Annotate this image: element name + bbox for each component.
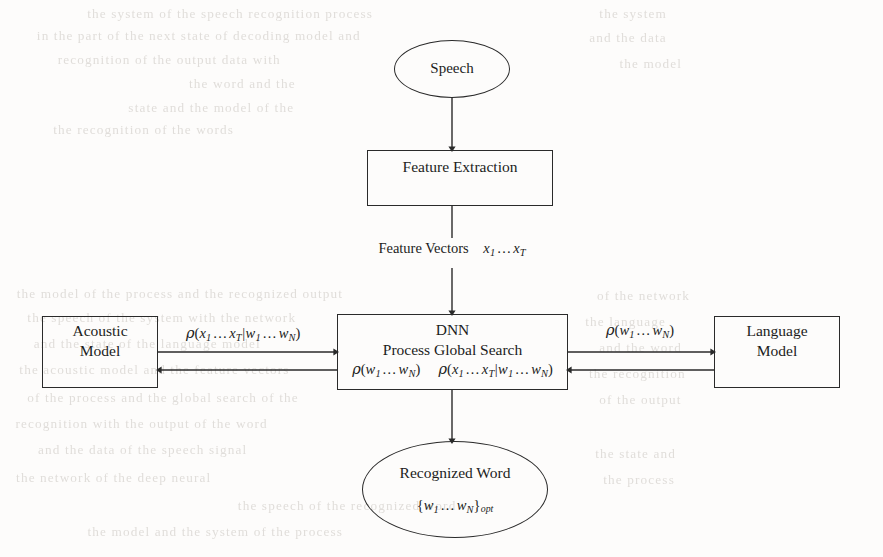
node-speech-label: Speech	[430, 59, 473, 78]
node-recognized-word-label: Recognized Word	[400, 463, 511, 483]
dnn-likelihood-probability: ρ(x1…xT|w1…wN)	[439, 360, 553, 380]
node-dnn-probabilities: ρ(w1…wN) ρ(x1…xT|w1…wN)	[352, 360, 553, 380]
node-dnn[interactable]: DNN Process Global Search ρ(w1…wN) ρ(x1……	[337, 314, 568, 390]
node-recognized-word[interactable]: Recognized Word {w1…wN}opt	[362, 441, 548, 538]
node-dnn-line2: Process Global Search	[383, 340, 522, 360]
node-speech[interactable]: Speech	[394, 40, 510, 98]
node-feature-extraction[interactable]: Feature Extraction	[367, 150, 553, 206]
edge-label-feature-vectors: Feature Vectors x1…xT	[352, 240, 552, 258]
node-acoustic-model-line2: Model	[80, 341, 120, 361]
node-acoustic-model[interactable]: Acoustic Model	[42, 316, 158, 388]
edge-label-acoustic-probability: ρ(x1…xT|w1…wN)	[186, 325, 300, 343]
node-recognized-word-math: {w1…wN}opt	[417, 496, 494, 516]
node-language-model-line1: Language	[746, 321, 807, 341]
node-language-model[interactable]: Language Model	[714, 316, 840, 388]
dnn-prior-probability: ρ(w1…wN)	[352, 360, 420, 380]
edge-label-language-probability: ρ(w1…wN)	[606, 322, 674, 340]
node-dnn-line1: DNN	[436, 320, 470, 340]
node-feature-extraction-label: Feature Extraction	[403, 157, 518, 177]
feature-vectors-text: Feature Vectors	[378, 240, 468, 256]
node-language-model-line2: Model	[757, 341, 797, 361]
node-acoustic-model-line1: Acoustic	[72, 321, 127, 341]
diagram-canvas: the system of the speech recognition pro…	[0, 0, 883, 557]
